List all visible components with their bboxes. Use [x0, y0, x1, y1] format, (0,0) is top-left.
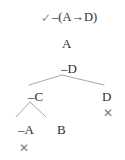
root-checkmark-icon: ✓ — [41, 12, 51, 24]
split-d-right — [62, 75, 104, 85]
node-positive-d: D — [102, 90, 111, 103]
node-negated-a: –A — [18, 123, 34, 136]
split-c-right — [30, 102, 46, 117]
close-mark-icon-branch-d: ✕ — [103, 107, 113, 119]
node-positive-b: B — [57, 123, 66, 136]
node-negated-c: –C — [28, 90, 43, 103]
close-mark-icon-branch-a: ✕ — [19, 142, 29, 154]
split-d-left — [29, 75, 62, 85]
node-premise-a: A — [62, 37, 71, 50]
node-negated-d: –D — [61, 62, 77, 75]
split-c-left — [16, 102, 30, 117]
node-root-negated-conditional: –(A→D) — [52, 11, 97, 24]
truth-tree-figure: ✓ –(A→D) A –D –C D ✕ –A ✕ B — [0, 0, 125, 160]
